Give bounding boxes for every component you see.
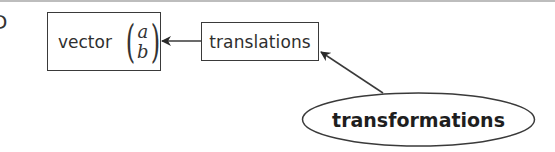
matrix-entries: a b [137,22,149,62]
vector-label: vector [58,32,112,52]
column-vector-matrix: ( a b ) [122,20,164,64]
transformations-label: transformations [332,109,505,131]
left-paren: ( [126,20,135,64]
matrix-entry-bottom: b [137,42,149,62]
transformations-node: transformations [302,92,535,147]
arrow-transformations-to-translations [321,52,383,93]
matrix-entry-top: a [137,22,148,42]
translations-label: translations [209,32,310,52]
translations-node: translations [201,22,319,61]
right-paren: ) [150,20,159,64]
vector-node: vector ( a b ) [47,12,161,71]
